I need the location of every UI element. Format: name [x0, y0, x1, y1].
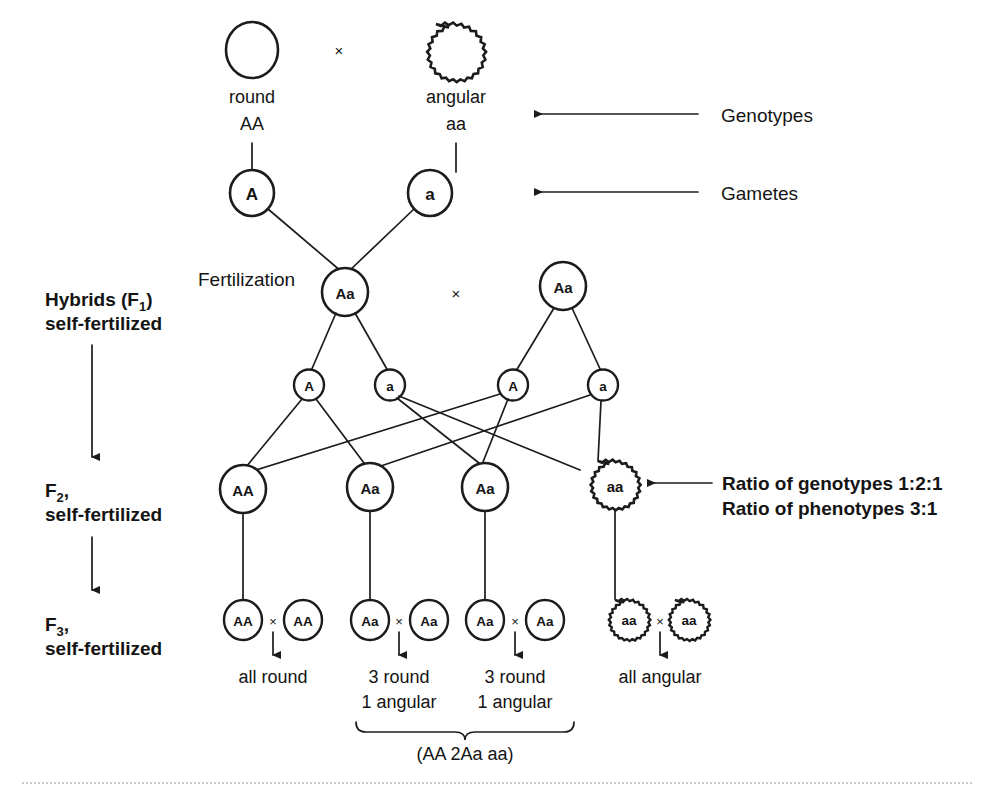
f3-right-label-2: Aa — [536, 614, 554, 629]
f1-gamete-A-right: A — [498, 370, 528, 401]
f3-selffert-text: self-fertilized — [45, 638, 162, 659]
f1-zygote-left: Aa — [322, 268, 368, 316]
genetics-cross-diagram: round AA × angular aa A a Fertilization … — [0, 0, 987, 797]
punnett-line-Aleft-to-Aa2 — [316, 399, 367, 467]
f2-genotype-label-0: AA — [232, 482, 254, 499]
genotypes-annotation-label: Genotypes — [721, 105, 813, 126]
fertilization-line-right — [348, 209, 414, 272]
svg-text:Hybrids (F1): Hybrids (F1) — [45, 289, 153, 314]
f2-genotype-AA: AA — [220, 465, 266, 513]
punnett-line-aright-to-Aa2 — [372, 395, 590, 469]
f1-left-leg-A — [311, 313, 336, 371]
genotype-ratio-note: Ratio of genotypes 1:2:1 — [722, 473, 943, 494]
f2-genotype-label-3: aa — [607, 478, 624, 495]
f1-right-leg-a — [572, 308, 601, 371]
f2-comma: , — [64, 480, 69, 501]
parent-left-genotype-label: AA — [240, 114, 264, 134]
f3-cross-symbol-1: × — [395, 614, 403, 629]
f1-right-leg-A — [516, 308, 554, 371]
page-edge-artifact — [22, 782, 972, 786]
hybrids-subscript: 1 — [139, 299, 146, 314]
punnett-line-Aright-to-AA — [253, 394, 500, 471]
f3-comma: , — [64, 614, 69, 635]
fertilization-label: Fertilization — [198, 269, 295, 290]
f2-genotype-aa: aa — [591, 460, 641, 511]
left-label-f2: F2, self-fertilized — [45, 480, 162, 525]
fertilization-line-left — [268, 209, 342, 272]
punnett-line-Aright-to-Aa3 — [481, 399, 508, 467]
parent-round-AA — [226, 22, 278, 78]
f3-right-label-1: Aa — [420, 614, 438, 629]
f1-gamete-A-left: A — [294, 370, 324, 401]
gametes-annotation-label: Gametes — [721, 183, 798, 204]
f2-genotype-Aa-1: Aa — [347, 463, 393, 511]
f3-outcome-line1-0: all round — [238, 667, 307, 687]
f3-subscript: 3 — [57, 624, 64, 639]
f3-left-label-3: aa — [621, 613, 637, 628]
f3-outcome-line2-1: 1 angular — [361, 692, 436, 712]
figure-canvas: round AA × angular aa A a Fertilization … — [0, 0, 987, 797]
f2-genotype-label-1: Aa — [360, 480, 380, 497]
f3-cross-1: Aa × Aa 3 round 1 angular — [351, 600, 448, 712]
f3-cross-2: Aa × Aa 3 round 1 angular — [466, 600, 564, 712]
f1-right-genotype-label: Aa — [553, 279, 573, 296]
parent-left-phenotype-label: round — [229, 87, 275, 107]
svg-text:F2,: F2, — [45, 480, 69, 505]
f2-subscript: 2 — [57, 490, 64, 505]
f2-genotype-Aa-2: Aa — [462, 463, 508, 511]
f2-selffert-text: self-fertilized — [45, 504, 162, 525]
parent-angular-aa — [427, 23, 486, 83]
f3-right-label-0: AA — [293, 614, 313, 629]
f3-outcome-line1-3: all angular — [618, 667, 701, 687]
f1-left-leg-a — [355, 313, 388, 371]
parent-cross-symbol: × — [335, 42, 344, 59]
f3-outcome-line1-1: 3 round — [368, 667, 429, 687]
svg-text:F3,: F3, — [45, 614, 69, 639]
f3-left-label-0: AA — [233, 614, 253, 629]
f3-cross-3: aa × aa all angular — [609, 599, 711, 687]
f3-outcome-line2-2: 1 angular — [477, 692, 552, 712]
f3-cross-symbol-3: × — [656, 614, 664, 629]
f2-main-text: F — [45, 480, 57, 501]
f1-gamete-label-1: a — [386, 379, 394, 394]
f3-main-text: F — [45, 614, 57, 635]
f2-genotype-label-2: Aa — [475, 480, 495, 497]
f3-left-label-2: Aa — [476, 614, 494, 629]
f1-zygote-right: Aa — [540, 262, 586, 310]
summary-brace — [356, 722, 574, 740]
hybrids-selffert-text: self-fertilized — [45, 313, 162, 334]
f3-outcome-line1-2: 3 round — [484, 667, 545, 687]
punnett-line-aright-to-aa — [598, 401, 601, 461]
f3-right-label-3: aa — [681, 613, 697, 628]
f3-left-label-1: Aa — [361, 614, 379, 629]
f1-left-genotype-label: Aa — [335, 285, 355, 302]
f1-cross-symbol: × — [452, 285, 461, 302]
hybrids-main-text: Hybrids (F — [45, 289, 139, 310]
phenotype-ratio-note: Ratio of phenotypes 3:1 — [722, 498, 938, 519]
f1-gamete-label-2: A — [508, 379, 518, 394]
f1-gamete-label-0: A — [304, 379, 314, 394]
parent-right-genotype-label: aa — [446, 114, 467, 134]
f1-gamete-label-3: a — [599, 379, 607, 394]
hybrids-close-paren: ) — [146, 289, 152, 310]
f3-cross-0: AA × AA all round — [224, 600, 322, 687]
parent-right-phenotype-label: angular — [426, 87, 486, 107]
gamete-a-label: a — [425, 185, 435, 204]
f3-cross-symbol-2: × — [511, 614, 519, 629]
brace-summary-label: (AA 2Aa aa) — [416, 744, 513, 764]
left-label-hybrids: Hybrids (F1) self-fertilized — [45, 289, 162, 334]
f1-gamete-a-right: a — [588, 370, 618, 401]
left-label-f3: F3, self-fertilized — [45, 614, 162, 659]
f3-cross-symbol-0: × — [269, 614, 277, 629]
punnett-line-Aleft-to-AA — [246, 399, 302, 467]
gamete-A-label: A — [246, 185, 258, 204]
